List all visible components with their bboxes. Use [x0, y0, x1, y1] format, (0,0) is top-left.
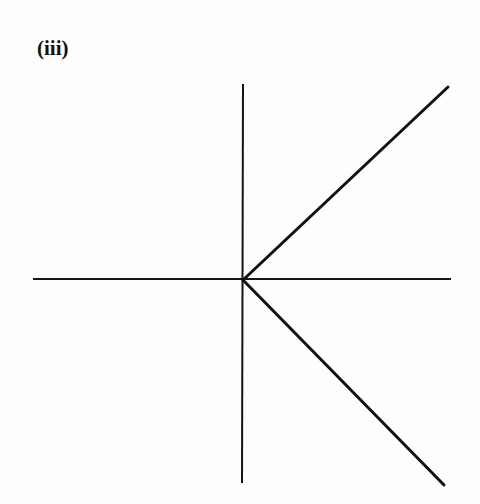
lower-ray — [243, 280, 444, 485]
upper-ray — [243, 87, 448, 280]
graph — [0, 0, 480, 504]
y-axis — [242, 84, 243, 483]
